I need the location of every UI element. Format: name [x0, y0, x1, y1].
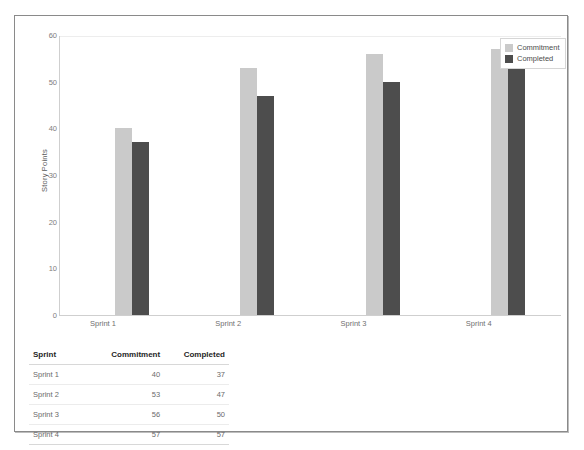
legend-item-commitment[interactable]: Commitment	[505, 43, 560, 53]
plot-area	[59, 36, 561, 316]
table-row: Sprint 45757	[29, 425, 229, 445]
cell-commitment: 57	[97, 425, 164, 445]
column-header-commitment: Commitment	[97, 346, 164, 365]
table-row: Sprint 35650	[29, 405, 229, 425]
sprint-report-card: Story Points 6050403020100 Sprint 1Sprin…	[14, 15, 568, 432]
y-axis-tick-20: 20	[35, 219, 57, 227]
bar-completed[interactable]	[257, 96, 274, 315]
x-axis-tick-label: Sprint 2	[185, 319, 310, 333]
bar-group	[60, 36, 185, 315]
cell-commitment: 56	[97, 405, 164, 425]
bar-completed[interactable]	[383, 82, 400, 315]
legend-swatch-icon	[505, 55, 513, 63]
bar-group	[185, 36, 310, 315]
bar-commitment[interactable]	[491, 49, 508, 315]
legend-swatch-icon	[505, 44, 513, 52]
y-axis-tick-60: 60	[35, 32, 57, 40]
bar-group	[311, 36, 436, 315]
y-axis-tick-labels: 6050403020100	[35, 16, 57, 334]
bar-chart: Story Points 6050403020100 Sprint 1Sprin…	[15, 16, 567, 334]
legend-item-completed[interactable]: Completed	[505, 54, 560, 64]
bar-groups	[60, 36, 561, 315]
x-axis-tick-label: Sprint 4	[436, 319, 561, 333]
cell-commitment: 40	[97, 365, 164, 385]
y-axis-tick-0: 0	[35, 312, 57, 320]
cell-sprint: Sprint 3	[29, 405, 97, 425]
legend-label: Commitment	[517, 44, 560, 52]
y-axis-tick-10: 10	[35, 266, 57, 274]
table-header-row: Sprint Commitment Completed	[29, 346, 229, 365]
cell-completed: 57	[164, 425, 229, 445]
bar-completed[interactable]	[132, 142, 149, 315]
table-row: Sprint 25347	[29, 385, 229, 405]
cell-completed: 37	[164, 365, 229, 385]
bar-commitment[interactable]	[240, 68, 257, 315]
cell-sprint: Sprint 4	[29, 425, 97, 445]
cell-commitment: 53	[97, 385, 164, 405]
bar-commitment[interactable]	[115, 128, 132, 315]
sprint-data-table: Sprint Commitment Completed Sprint 14037…	[29, 346, 229, 445]
cell-completed: 50	[164, 405, 229, 425]
bar-group	[436, 36, 561, 315]
cell-completed: 47	[164, 385, 229, 405]
bar-completed[interactable]	[508, 49, 525, 315]
y-axis-tick-50: 50	[35, 79, 57, 87]
y-axis-tick-40: 40	[35, 126, 57, 134]
cell-sprint: Sprint 2	[29, 385, 97, 405]
x-axis-line	[59, 315, 561, 316]
legend-label: Completed	[517, 55, 553, 63]
x-axis-tick-label: Sprint 3	[311, 319, 436, 333]
x-axis-tick-labels: Sprint 1Sprint 2Sprint 3Sprint 4	[60, 319, 561, 333]
x-axis-tick-label: Sprint 1	[60, 319, 185, 333]
y-axis-tick-30: 30	[35, 172, 57, 180]
table-row: Sprint 14037	[29, 365, 229, 385]
chart-legend: CommitmentCompleted	[500, 38, 566, 69]
column-header-sprint: Sprint	[29, 346, 97, 365]
table-body: Sprint 14037Sprint 25347Sprint 35650Spri…	[29, 365, 229, 445]
bar-commitment[interactable]	[366, 54, 383, 315]
cell-sprint: Sprint 1	[29, 365, 97, 385]
column-header-completed: Completed	[164, 346, 229, 365]
